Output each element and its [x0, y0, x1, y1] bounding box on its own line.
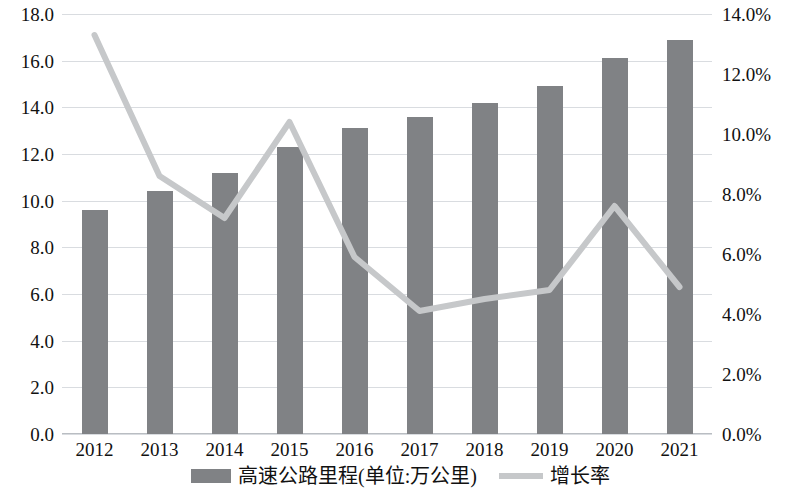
y-axis-left-tick-label: 12.0	[21, 145, 54, 164]
growth-rate-polyline	[95, 35, 680, 311]
x-axis-tick-label-2012: 2012	[76, 440, 114, 459]
bar-2021	[667, 40, 693, 434]
y-axis-left-tick-label: 4.0	[30, 331, 54, 350]
bar-2019	[537, 86, 563, 434]
bar-2017	[407, 117, 433, 434]
bar-2014	[212, 173, 238, 434]
x-axis-tick-label-2013: 2013	[141, 440, 179, 459]
y-axis-left-tick-label: 18.0	[21, 5, 54, 24]
x-axis-tick-label-2018: 2018	[466, 440, 504, 459]
bar-2015	[277, 147, 303, 434]
legend-bar-label: 高速公路里程(单位:万公里)	[238, 466, 477, 486]
bar-2013	[147, 191, 173, 434]
y-axis-right-tick-label: 8.0%	[722, 185, 762, 204]
x-axis-tick-label-2015: 2015	[271, 440, 309, 459]
y-axis-left-tick-label: 8.0	[30, 238, 54, 257]
chart-legend: 高速公路里程(单位:万公里) 增长率	[0, 466, 801, 486]
y-axis-left-tick-label: 2.0	[30, 378, 54, 397]
gridline	[62, 434, 712, 435]
y-axis-right-tick-label: 10.0%	[722, 125, 771, 144]
y-axis-left-tick-label: 6.0	[30, 285, 54, 304]
legend-line-label: 增长率	[550, 466, 610, 486]
plot-area	[62, 14, 712, 434]
x-axis-tick-label-2019: 2019	[531, 440, 569, 459]
y-axis-left-tick-label: 10.0	[21, 191, 54, 210]
y-axis-right-tick-label: 6.0%	[722, 245, 762, 264]
y-axis-right-tick-label: 2.0%	[722, 365, 762, 384]
x-axis-tick-label-2020: 2020	[596, 440, 634, 459]
legend-line-swatch-icon	[499, 473, 543, 479]
bar-2016	[342, 128, 368, 434]
bar-2020	[602, 58, 628, 434]
y-axis-right-tick-label: 0.0%	[722, 425, 762, 444]
y-axis-left-tick-label: 0.0	[30, 425, 54, 444]
x-axis-tick-label-2017: 2017	[401, 440, 439, 459]
legend-item-bar: 高速公路里程(单位:万公里)	[191, 466, 477, 486]
y-axis-right-tick-label: 12.0%	[722, 65, 771, 84]
x-axis-tick-label-2021: 2021	[661, 440, 699, 459]
legend-bar-swatch-icon	[191, 469, 231, 483]
y-axis-right-tick-label: 14.0%	[722, 5, 771, 24]
x-axis-tick-label-2016: 2016	[336, 440, 374, 459]
y-axis-right-tick-label: 4.0%	[722, 305, 762, 324]
bar-2018	[472, 103, 498, 434]
x-axis-tick-label-2014: 2014	[206, 440, 244, 459]
gridline	[62, 14, 712, 15]
chart-container: 0.02.04.06.08.010.012.014.016.018.0 0.0%…	[0, 0, 801, 501]
bar-2012	[82, 210, 108, 434]
legend-item-line: 增长率	[499, 466, 610, 486]
y-axis-left-tick-label: 16.0	[21, 51, 54, 70]
y-axis-left-tick-label: 14.0	[21, 98, 54, 117]
